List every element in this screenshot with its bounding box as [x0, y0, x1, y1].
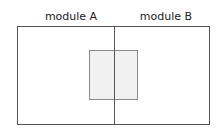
module-divider [114, 26, 115, 125]
module-a-label: module A [31, 10, 111, 23]
module-b-label: module B [126, 10, 206, 23]
